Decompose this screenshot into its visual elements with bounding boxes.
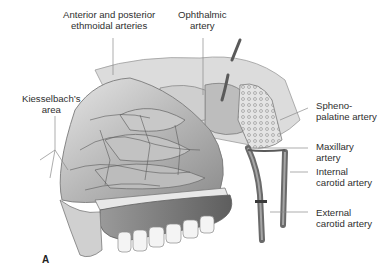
label-line-2: artery bbox=[316, 152, 354, 163]
label-line-1: Kiesselbach’s bbox=[22, 93, 81, 104]
label-line-2: carotid artery bbox=[316, 177, 372, 188]
label-line-2: ethmoidal arteries bbox=[63, 20, 155, 31]
label-line-2: carotid artery bbox=[316, 218, 372, 229]
maxillary-artery-vessel bbox=[248, 150, 285, 151]
label-line-2: artery bbox=[178, 20, 227, 31]
label-line-1: Ophthalmic bbox=[178, 9, 227, 20]
label-line-1: Spheno- bbox=[316, 100, 377, 111]
external-carotid-ligature bbox=[255, 200, 267, 203]
label-line-1: Anterior and posterior bbox=[63, 9, 155, 20]
label-ophthalmic-artery: Ophthalmic artery bbox=[178, 9, 227, 31]
label-kiesselbach-area: Kiesselbach’s area bbox=[22, 93, 81, 115]
label-line-1: Maxillary bbox=[316, 141, 354, 152]
nasal-cavity-arterial-supply-figure: Anterior and posterior ethmoidal arterie… bbox=[0, 0, 392, 274]
anatomical-illustration bbox=[0, 0, 392, 274]
label-ethmoidal-arteries: Anterior and posterior ethmoidal arterie… bbox=[63, 9, 155, 31]
label-internal-carotid-artery: Internal carotid artery bbox=[316, 166, 372, 188]
upper-lip bbox=[60, 200, 102, 257]
label-line-1: Internal bbox=[316, 166, 372, 177]
label-sphenopalatine-artery: Spheno- palatine artery bbox=[316, 100, 377, 122]
label-line-2: area bbox=[22, 104, 81, 115]
label-line-1: External bbox=[316, 207, 372, 218]
label-external-carotid-artery: External carotid artery bbox=[316, 207, 372, 229]
panel-letter: A bbox=[42, 254, 49, 265]
label-maxillary-artery: Maxillary artery bbox=[316, 141, 354, 163]
label-line-2: palatine artery bbox=[316, 111, 377, 122]
